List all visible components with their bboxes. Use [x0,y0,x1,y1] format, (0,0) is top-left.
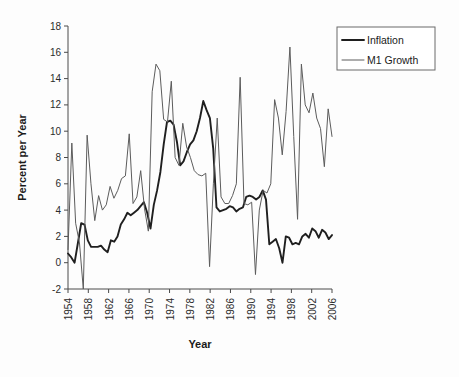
x-tick-label: 1998 [286,298,297,321]
x-tick-label: 1994 [266,298,277,321]
y-tick-label: 6 [55,178,61,189]
chart-figure: 181614121086420-219541958196219661970197… [0,0,459,377]
y-tick-label: 4 [55,205,61,216]
x-tick-label: 1966 [124,298,135,321]
series-line-inflation [68,101,332,263]
data-series-group [68,47,332,289]
x-tick-label: 1974 [165,298,176,321]
x-tick-label: 2002 [307,298,318,321]
x-tick-label: 1990 [246,298,257,321]
y-tick-label: 14 [50,73,62,84]
y-tick-label: 12 [50,99,62,110]
y-tick-label: 10 [50,126,62,137]
chart-legend: InflationM1 Growth [337,27,435,70]
y-tick-label: 8 [55,152,61,163]
y-tick-label: 2 [55,231,61,242]
y-tick-label: 16 [50,47,62,58]
y-tick-label: 18 [50,21,62,32]
x-tick-label: 1978 [185,298,196,321]
line-chart: 181614121086420-219541958196219661970197… [0,0,459,377]
x-tick-label: 1986 [225,298,236,321]
y-tick-label: 0 [55,257,61,268]
x-tick-label: 1970 [144,298,155,321]
x-tick-label: 1954 [63,298,74,321]
x-tick-label: 1958 [83,298,94,321]
y-tick-label: -2 [52,284,61,295]
x-tick-label: 1982 [205,298,216,321]
x-tick-label: 1962 [104,298,115,321]
legend-label-m1-growth: M1 Growth [367,54,419,66]
x-tick-label: 2006 [327,298,338,321]
x-axis-title: Year [188,338,212,350]
legend-label-inflation: Inflation [367,34,404,46]
y-axis-title: Percent per Year [16,113,28,200]
